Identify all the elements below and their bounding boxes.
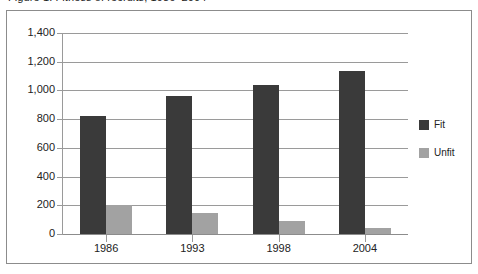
y-axis-tick — [57, 205, 63, 206]
bar-unfit-1986 — [106, 205, 132, 234]
legend-item-fit[interactable]: Fit — [419, 111, 471, 139]
bar-fit-2004 — [339, 71, 365, 234]
y-axis-tick — [57, 62, 63, 63]
y-axis-tick — [57, 148, 63, 149]
y-axis-tick-label: 1,400 — [11, 27, 55, 38]
y-axis-tick-label: 600 — [11, 142, 55, 153]
legend-item-label: Unfit — [434, 148, 455, 158]
x-axis-tick — [279, 235, 280, 242]
page-title: Figure 1. Fitness of recruits, 1986–2004 — [8, 0, 206, 3]
y-axis-labels: 02004006008001,0001,2001,400 — [7, 11, 55, 265]
y-axis-tick — [57, 33, 63, 34]
x-axis-tick — [106, 235, 107, 242]
x-axis-tick-label: 2004 — [335, 243, 395, 254]
y-axis-tick — [57, 90, 63, 91]
x-axis-tick-label: 1986 — [76, 243, 136, 254]
plot-area — [63, 33, 408, 234]
chart-title-strip: Figure 1. Fitness of recruits, 1986–2004 — [0, 0, 478, 9]
y-axis-tick — [57, 234, 63, 235]
bar-fit-1998 — [253, 85, 279, 234]
legend-item-label: Fit — [434, 120, 445, 130]
x-axis-tick — [365, 235, 366, 242]
bar-unfit-2004 — [365, 228, 391, 234]
legend-swatch-unfit — [419, 148, 429, 158]
y-axis-tick — [57, 119, 63, 120]
y-axis-tick-label: 200 — [11, 199, 55, 210]
bar-unfit-1998 — [279, 221, 305, 234]
chart-legend: FitUnfit — [419, 111, 471, 167]
x-axis-tick-label: 1998 — [249, 243, 309, 254]
y-axis-tick-label: 1,200 — [11, 56, 55, 67]
legend-swatch-fit — [419, 120, 429, 130]
bar-unfit-1993 — [192, 213, 218, 234]
y-axis-tick — [57, 177, 63, 178]
gridline — [63, 62, 408, 63]
gridline — [63, 33, 408, 34]
chart-frame: 02004006008001,0001,2001,400 FitUnfit 19… — [6, 10, 472, 264]
y-axis-tick-label: 400 — [11, 171, 55, 182]
y-axis-tick-label: 0 — [11, 228, 55, 239]
y-axis-tick-label: 1,000 — [11, 84, 55, 95]
x-axis-tick-label: 1993 — [162, 243, 222, 254]
legend-item-unfit[interactable]: Unfit — [419, 139, 471, 167]
y-axis-tick-label: 800 — [11, 113, 55, 124]
gridline — [63, 234, 408, 235]
bar-fit-1986 — [80, 116, 106, 234]
x-axis-tick — [192, 235, 193, 242]
bar-fit-1993 — [166, 96, 192, 234]
